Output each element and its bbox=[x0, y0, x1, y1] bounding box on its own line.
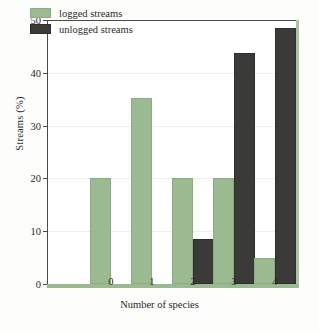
gridline bbox=[48, 126, 296, 127]
plot-area: 01020304050 bbox=[47, 20, 299, 288]
y-tick-mark bbox=[43, 231, 47, 232]
chart-legend: logged streams unlogged streams bbox=[30, 5, 133, 37]
legend-swatch-logged-icon bbox=[30, 8, 51, 18]
legend-item-unlogged: unlogged streams bbox=[30, 21, 133, 37]
bar-logged-0 bbox=[90, 178, 111, 284]
x-tick-label: 2 bbox=[190, 276, 195, 287]
axis-baseline bbox=[47, 284, 299, 288]
y-tick-mark bbox=[43, 126, 47, 127]
bar-unlogged-2 bbox=[193, 239, 214, 284]
legend-label-unlogged: unlogged streams bbox=[59, 24, 133, 35]
y-tick-mark bbox=[43, 73, 47, 74]
x-tick-label: 4 bbox=[272, 276, 277, 287]
bar-logged-2 bbox=[172, 178, 193, 284]
y-tick-mark bbox=[43, 178, 47, 179]
y-tick-label: 10 bbox=[31, 226, 42, 237]
axis-frame-left bbox=[47, 20, 48, 288]
x-tick-label: 0 bbox=[108, 276, 113, 287]
legend-label-logged: logged streams bbox=[59, 8, 122, 19]
x-tick-label: 3 bbox=[231, 276, 236, 287]
legend-swatch-unlogged-icon bbox=[30, 24, 51, 34]
y-tick-label: 0 bbox=[36, 279, 41, 290]
x-tick-label: 1 bbox=[149, 276, 154, 287]
y-tick-label: 20 bbox=[31, 173, 42, 184]
axis-frame-right bbox=[296, 20, 299, 288]
y-tick-label: 40 bbox=[31, 67, 42, 78]
legend-item-logged: logged streams bbox=[30, 5, 133, 21]
bar-unlogged-4 bbox=[275, 28, 296, 284]
bar-unlogged-3 bbox=[234, 53, 255, 284]
y-tick-mark bbox=[43, 284, 47, 285]
y-tick-label: 30 bbox=[31, 120, 42, 131]
x-axis-title: Number of species bbox=[0, 299, 319, 310]
bar-logged-1 bbox=[131, 98, 152, 284]
gridline bbox=[48, 73, 296, 74]
bar-logged-3 bbox=[213, 178, 234, 284]
y-axis-title: Streams (%) bbox=[14, 69, 25, 179]
bar-chart-figure: Streams (%) 01020304050 01234 Number of … bbox=[0, 0, 319, 333]
